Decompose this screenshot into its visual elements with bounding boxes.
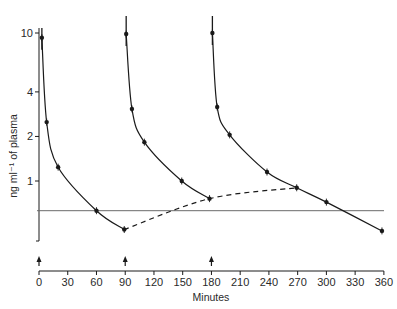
dose-arrows: [37, 256, 214, 266]
pharmacokinetic-chart: 12410 ng ml⁻¹ of plasma 0306090120150180…: [0, 0, 397, 309]
x-tick-label: 120: [145, 276, 163, 288]
x-tick-label: 90: [119, 276, 131, 288]
x-tick-label: 30: [62, 276, 74, 288]
x-tick-label: 180: [202, 276, 220, 288]
y-tick-label: 10: [21, 27, 33, 39]
x-tick-label: 300: [317, 276, 335, 288]
x-tick-label: 240: [260, 276, 278, 288]
x-axis-label: Minutes: [193, 291, 230, 303]
x-tick-label: 210: [231, 276, 249, 288]
y-axis-label: ng ml⁻¹ of plasma: [7, 114, 19, 198]
arrow-up-icon: [209, 256, 214, 262]
x-tick-label: 150: [174, 276, 192, 288]
arrow-up-icon: [123, 256, 128, 262]
y-axis: [36, 28, 39, 241]
data-series: [40, 16, 384, 234]
x-tick-label: 0: [36, 276, 42, 288]
x-tick-label: 270: [288, 276, 306, 288]
dashed-trough-curve: [124, 188, 296, 230]
concentration-curve: [212, 33, 382, 231]
x-tick-label: 360: [375, 276, 393, 288]
concentration-curve: [126, 34, 209, 199]
concentration-curve: [42, 38, 124, 230]
x-tick-label: 330: [346, 276, 364, 288]
y-axis-ticks: 12410: [21, 27, 39, 187]
y-tick-label: 4: [27, 86, 33, 98]
y-tick-label: 1: [27, 175, 33, 187]
arrow-up-icon: [37, 256, 42, 262]
x-tick-label: 60: [90, 276, 102, 288]
x-axis-ticks: 0306090120150180210240270300330360: [36, 271, 393, 288]
y-tick-label: 2: [27, 130, 33, 142]
